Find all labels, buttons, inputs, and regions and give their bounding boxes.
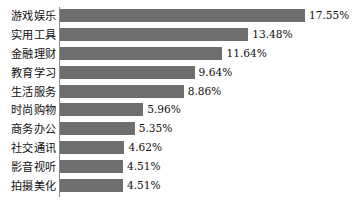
bar [60,122,135,135]
bar-value-label: 5.96% [147,103,181,116]
bar-rows-container: 游戏娱乐17.55%实用工具13.48%金融理财11.64%教育学习9.64%生… [0,7,360,196]
bar-row: 金融理财11.64% [0,45,360,64]
bar-row: 教育学习9.64% [0,64,360,83]
bar [60,47,222,60]
bar-track: 17.55% [60,9,349,22]
category-label: 商务办公 [0,123,56,136]
bar-value-label: 4.62% [128,141,162,154]
bar-track: 9.64% [60,66,232,79]
bar-chart: 游戏娱乐17.55%实用工具13.48%金融理财11.64%教育学习9.64%生… [0,0,360,210]
bar-row: 时尚购物5.96% [0,101,360,120]
bar [60,9,305,22]
bar-value-label: 13.48% [252,28,292,41]
bar [60,160,123,173]
bar-value-label: 4.51% [127,179,161,192]
bar-row: 影音视听4.51% [0,158,360,177]
bar-track: 4.51% [60,160,161,173]
bar-value-label: 5.35% [139,122,173,135]
bar-row: 商务办公5.35% [0,120,360,139]
bar-track: 11.64% [60,47,267,60]
bar-value-label: 17.55% [309,9,349,22]
bar [60,28,248,41]
bar-track: 4.62% [60,141,162,154]
category-label: 拍摄美化 [0,180,56,193]
bar-row: 实用工具13.48% [0,26,360,45]
bar-row: 游戏娱乐17.55% [0,7,360,26]
bar-value-label: 4.51% [127,160,161,173]
bar-value-label: 9.64% [199,66,233,79]
category-label: 实用工具 [0,29,56,42]
bar-value-label: 11.64% [226,47,266,60]
category-label: 教育学习 [0,67,56,80]
category-label: 社交通讯 [0,142,56,155]
bar-track: 5.35% [60,122,172,135]
bar-value-label: 8.86% [188,85,222,98]
category-label: 影音视听 [0,161,56,174]
category-label: 金融理财 [0,48,56,61]
category-label: 游戏娱乐 [0,10,56,23]
bar [60,141,124,154]
bar [60,103,143,116]
bar-track: 4.51% [60,179,161,192]
bar [60,66,195,79]
bar-track: 13.48% [60,28,293,41]
bar [60,85,184,98]
bar-row: 拍摄美化4.51% [0,177,360,196]
category-label: 生活服务 [0,86,56,99]
bar-track: 5.96% [60,103,181,116]
category-label: 时尚购物 [0,104,56,117]
bar-row: 生活服务8.86% [0,83,360,102]
bar [60,179,123,192]
bar-row: 社交通讯4.62% [0,139,360,158]
bar-track: 8.86% [60,85,221,98]
